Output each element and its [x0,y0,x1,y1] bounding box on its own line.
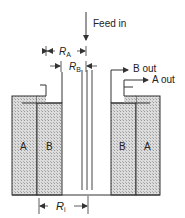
right-vessel [111,70,160,195]
feed-in-label: Feed in [93,18,126,29]
ri-label: Ri [56,200,66,213]
left-a-outlet-pipe [40,85,46,96]
separator-diagram: Feed in RA RB A B [0,0,185,218]
ra-label: RA [59,46,71,58]
a-out-pipe [124,80,148,96]
left-region-a-label: A [20,141,27,152]
a-out-label: A out [152,74,175,85]
rb-label: RB [69,61,81,73]
b-out-label: B out [133,63,157,74]
central-feed-pipes [82,70,92,190]
left-region-b-label: B [46,141,53,152]
left-vessel [12,72,62,195]
right-region-a-label: A [144,141,151,152]
right-region-b-label: B [119,141,126,152]
